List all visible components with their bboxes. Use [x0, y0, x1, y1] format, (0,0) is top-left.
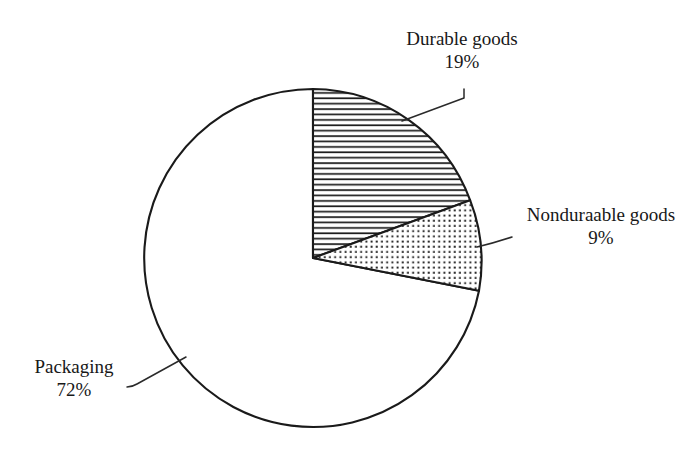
pie-label-nondurable-goods-name: Nonduraable goods [505, 203, 697, 226]
pie-label-packaging-value: 72% [12, 378, 136, 401]
leader-line-durable-goods [402, 89, 464, 121]
pie-label-durable-goods-value: 19% [378, 50, 546, 73]
pie-label-nondurable-goods-value: 9% [505, 226, 697, 249]
pie-label-nondurable-goods: Nonduraable goods 9% [505, 203, 697, 249]
pie-label-durable-goods-name: Durable goods [378, 27, 546, 50]
pie-label-packaging-name: Packaging [12, 355, 136, 378]
pie-label-durable-goods: Durable goods 19% [378, 27, 546, 73]
pie-chart-figure: Durable goods 19% Nonduraable goods 9% P… [0, 0, 699, 451]
pie-label-packaging: Packaging 72% [12, 355, 136, 401]
